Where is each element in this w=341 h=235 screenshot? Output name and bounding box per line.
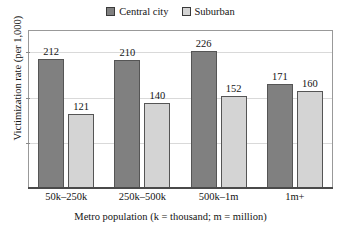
bar-suburban (297, 91, 323, 188)
bar-suburban (221, 96, 247, 188)
y-axis-title: Victimization rate (per 1,000) (12, 0, 24, 158)
legend-swatch-central-city (106, 7, 115, 16)
legend-label-suburban: Suburban (195, 6, 235, 17)
bar-value-label: 152 (214, 83, 254, 94)
bar-chart-figure: Central city Suburban 212121210140226152… (0, 0, 341, 235)
legend-entry-central-city: Central city (106, 6, 168, 17)
x-axis-category-label: 1m+ (250, 191, 340, 203)
bar-group: 171160 (267, 30, 323, 188)
bar-value-label: 121 (61, 101, 101, 112)
bar-group: 212121 (38, 30, 94, 188)
bar-value-label: 212 (31, 46, 71, 57)
x-axis-baseline (28, 187, 333, 189)
bar-central-city (38, 59, 64, 188)
bar-value-label: 210 (107, 47, 147, 58)
legend-swatch-suburban (182, 7, 191, 16)
chart-legend: Central city Suburban (0, 6, 341, 17)
bars-layer: 212121210140226152171160 (28, 30, 333, 188)
bar-central-city (267, 84, 293, 188)
bar-value-label: 160 (290, 78, 330, 89)
bar-central-city (191, 51, 217, 188)
bar-central-city (114, 60, 140, 188)
bar-value-label: 140 (137, 90, 177, 101)
x-axis-title: Metro population (k = thousand; m = mill… (0, 211, 341, 223)
bar-group: 210140 (114, 30, 170, 188)
bar-value-label: 226 (184, 38, 224, 49)
legend-label-central-city: Central city (119, 6, 168, 17)
bar-suburban (68, 114, 94, 188)
bar-suburban (144, 103, 170, 188)
legend-entry-suburban: Suburban (182, 6, 235, 17)
bar-group: 226152 (191, 30, 247, 188)
